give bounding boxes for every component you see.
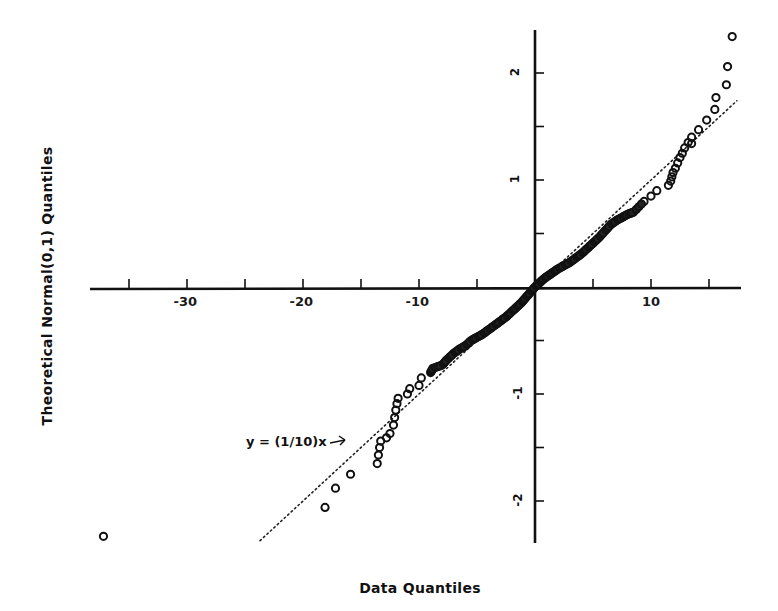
x-tick-label: -30: [174, 294, 198, 309]
y-tick-label: 2: [508, 68, 522, 76]
reference-line-annotation: y = (1/10)x: [246, 434, 327, 449]
annotation-arrow-icon: [330, 436, 345, 445]
y-tick-label: -2: [511, 493, 525, 506]
qq-plot: [0, 0, 778, 611]
x-tick-label: -20: [290, 294, 314, 309]
x-axis-title: Data Quantiles: [320, 580, 520, 596]
x-tick-label: -10: [406, 294, 430, 309]
y-axis-title: Theoretical Normal(0,1) Quantiles: [39, 121, 55, 451]
axes: [90, 30, 741, 543]
data-points: [100, 33, 736, 540]
y-tick-label: 1: [508, 175, 522, 183]
x-tick-label: 10: [642, 294, 660, 309]
y-tick-label: -1: [511, 386, 525, 399]
